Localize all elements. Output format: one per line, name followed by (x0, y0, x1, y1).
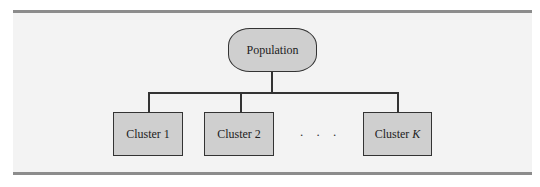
top-rule (13, 10, 532, 13)
cluster-k-variable: K (412, 127, 420, 142)
ellipsis: . . . (300, 124, 341, 140)
bottom-rule (13, 172, 532, 175)
cluster-1-label: Cluster 1 (126, 127, 170, 142)
cluster-2-label: Cluster 2 (217, 127, 261, 142)
branch-1 (148, 92, 150, 112)
cluster-2-node: Cluster 2 (204, 112, 274, 156)
branch-bar (148, 92, 398, 94)
cluster-1-node: Cluster 1 (113, 112, 183, 156)
population-node: Population (228, 28, 317, 72)
branch-2 (240, 92, 242, 112)
population-label: Population (246, 43, 298, 58)
root-stem (271, 72, 273, 93)
cluster-k-label: Cluster (375, 127, 413, 142)
cluster-k-node: Cluster K (363, 112, 432, 156)
branch-k (397, 92, 399, 112)
